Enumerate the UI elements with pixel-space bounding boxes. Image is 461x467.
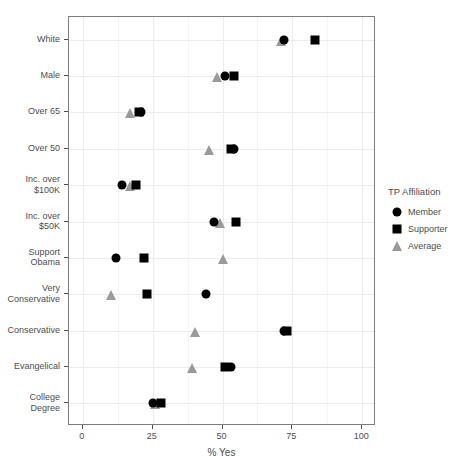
- y-axis-tick: [64, 39, 68, 40]
- data-point-circle: [137, 108, 146, 117]
- data-point-square: [392, 224, 401, 233]
- gridline-horizontal: [69, 331, 374, 332]
- y-axis-label: Conservative: [0, 324, 60, 335]
- x-axis-tick-label: 50: [216, 431, 226, 441]
- data-point-square: [157, 399, 166, 408]
- x-axis-tick: [361, 425, 362, 429]
- data-point-square: [229, 71, 238, 80]
- gridline-vertical-minor: [257, 17, 258, 424]
- x-axis-tick: [222, 425, 223, 429]
- data-point-circle: [226, 363, 235, 372]
- legend-title: TP Affiliation: [388, 186, 461, 197]
- data-point-triangle: [187, 363, 197, 373]
- data-point-circle: [279, 35, 288, 44]
- data-point-circle: [210, 217, 219, 226]
- data-point-circle: [229, 144, 238, 153]
- y-axis-tick: [64, 402, 68, 403]
- gridline-horizontal: [69, 185, 374, 186]
- data-point-square: [310, 35, 319, 44]
- y-axis-tick: [64, 293, 68, 294]
- data-point-triangle: [190, 327, 200, 337]
- data-point-circle: [279, 326, 288, 335]
- legend-label: Member: [408, 207, 441, 217]
- gridline-vertical: [292, 17, 293, 424]
- gridline-horizontal: [69, 112, 374, 113]
- data-point-square: [131, 181, 140, 190]
- data-point-triangle: [392, 241, 402, 251]
- y-axis-tick: [64, 257, 68, 258]
- y-axis-label: Support Obama: [0, 246, 60, 267]
- data-point-circle: [112, 253, 121, 262]
- x-axis-tick-label: 25: [147, 431, 157, 441]
- gridline-horizontal: [69, 403, 374, 404]
- y-axis-tick: [64, 184, 68, 185]
- gridline-vertical: [153, 17, 154, 424]
- legend-label: Supporter: [408, 224, 448, 234]
- y-axis-label: Male: [0, 70, 60, 81]
- data-point-triangle: [218, 254, 228, 264]
- gridline-vertical: [362, 17, 363, 424]
- y-axis-label: Very Conservative: [0, 283, 60, 304]
- x-axis-tick-label: 0: [79, 431, 84, 441]
- plot-panel: [68, 16, 375, 425]
- x-axis-tick-label: 75: [286, 431, 296, 441]
- data-point-circle: [221, 71, 230, 80]
- y-axis-tick: [64, 75, 68, 76]
- y-axis-label: Evangelical: [0, 361, 60, 372]
- legend-key-circle-icon: [388, 203, 405, 220]
- legend-rows: MemberSupporterAverage: [388, 203, 461, 254]
- data-point-triangle: [106, 290, 116, 300]
- gridline-vertical-minor: [327, 17, 328, 424]
- y-axis-label: Inc. over $100K: [0, 174, 60, 195]
- x-axis-tick: [82, 425, 83, 429]
- y-axis-tick: [64, 366, 68, 367]
- legend-item-supporter[interactable]: Supporter: [388, 220, 461, 237]
- y-axis-label: Over 50: [0, 142, 60, 153]
- data-point-square: [232, 217, 241, 226]
- y-axis-tick: [64, 111, 68, 112]
- data-point-circle: [201, 290, 210, 299]
- data-point-circle: [117, 181, 126, 190]
- gridline-vertical: [83, 17, 84, 424]
- gridline-horizontal: [69, 149, 374, 150]
- dot-plot-chart: WhiteMaleOver 65Over 50Inc. over $100KIn…: [0, 0, 461, 467]
- x-axis-tick-label: 100: [354, 431, 369, 441]
- legend-label: Average: [408, 241, 441, 251]
- legend-key-square-icon: [388, 220, 405, 237]
- y-axis-tick: [64, 221, 68, 222]
- y-axis-tick: [64, 330, 68, 331]
- gridline-vertical-minor: [118, 17, 119, 424]
- y-axis-label: Over 65: [0, 106, 60, 117]
- y-axis-tick: [64, 148, 68, 149]
- data-point-square: [140, 253, 149, 262]
- gridline-horizontal: [69, 40, 374, 41]
- data-point-circle: [148, 399, 157, 408]
- x-axis-title: % Yes: [0, 447, 443, 458]
- legend-item-member[interactable]: Member: [388, 203, 461, 220]
- x-axis-tick: [291, 425, 292, 429]
- x-axis-tick: [152, 425, 153, 429]
- data-point-triangle: [204, 145, 214, 155]
- data-point-square: [143, 290, 152, 299]
- legend-item-average[interactable]: Average: [388, 237, 461, 254]
- y-axis-label: Inc. over $50K: [0, 210, 60, 231]
- legend-key-triangle-icon: [388, 237, 405, 254]
- y-axis-label: White: [0, 33, 60, 44]
- legend: TP Affiliation MemberSupporterAverage: [388, 186, 461, 254]
- y-axis-label: College Degree: [0, 392, 60, 413]
- data-point-circle: [392, 207, 401, 216]
